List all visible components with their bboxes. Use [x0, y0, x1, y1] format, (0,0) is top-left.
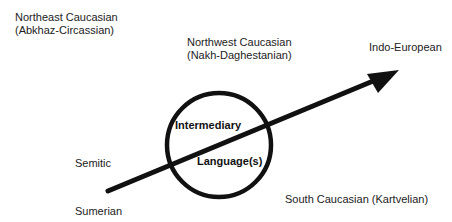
northeast-caucasian-label: Northeast Caucasian (Abkhaz-Circassian) [15, 11, 118, 37]
indo-european-label: Indo-European [369, 41, 442, 54]
northeast-caucasian-line2: (Abkhaz-Circassian) [15, 24, 118, 37]
northwest-caucasian-line2: (Nakh-Daghestanian) [187, 49, 292, 62]
northwest-caucasian-line1: Northwest Caucasian [187, 36, 292, 49]
languages-label: Language(s) [197, 155, 262, 168]
arrow-head-icon [367, 70, 399, 93]
arrow-shaft [108, 79, 378, 191]
south-caucasian-label: South Caucasian (Kartvelian) [285, 193, 428, 206]
semitic-label: Semitic [75, 157, 111, 170]
intermediary-label: Intermediary [175, 119, 241, 132]
northwest-caucasian-label: Northwest Caucasian (Nakh-Daghestanian) [187, 36, 292, 62]
northeast-caucasian-line1: Northeast Caucasian [15, 11, 118, 24]
sumerian-label: Sumerian [75, 205, 122, 218]
